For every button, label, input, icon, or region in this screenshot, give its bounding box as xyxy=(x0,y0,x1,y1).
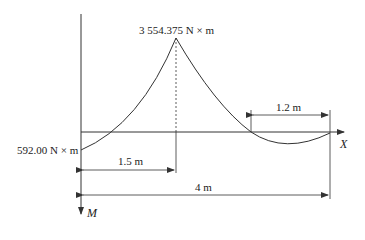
start-label: 592.00 N × m xyxy=(17,145,78,156)
dim-left-label: 1.5 m xyxy=(118,156,143,167)
dim-right-label: 1.2 m xyxy=(276,102,301,113)
dim-total-label: 4 m xyxy=(195,182,212,193)
m-axis-label: M xyxy=(87,207,97,219)
moment-curve xyxy=(81,38,330,150)
peak-label: 3 554.375 N × m xyxy=(139,25,214,36)
x-axis-label: X xyxy=(340,138,347,150)
